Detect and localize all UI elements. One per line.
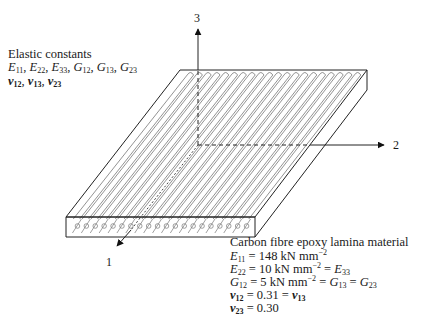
symbol: ν13 (28, 74, 42, 88)
symbol: ν12 (230, 288, 244, 302)
symbol: ν12 (8, 74, 22, 88)
symbol: G13 (329, 275, 346, 289)
symbol: G12 (230, 275, 247, 289)
symbol: G12 (73, 60, 90, 74)
symbol: G23 (360, 275, 377, 289)
symbol: E33 (334, 262, 350, 276)
symbol: E22 (30, 60, 46, 74)
symbol: G23 (120, 60, 137, 74)
symbol: E11 (8, 60, 23, 74)
elastic-constants-line2: ν12, ν13, ν23 (8, 75, 61, 88)
axis-1 (117, 230, 131, 246)
fibre-hatch (73, 73, 361, 220)
symbol: ν23 (48, 74, 62, 88)
axis-2-label: 2 (393, 138, 399, 153)
elastic-constants-line1: E11, E22, E33, G12, G13, G23 (8, 61, 137, 74)
symbol: G13 (97, 60, 114, 74)
material-v23: ν23 = 0.30 (230, 302, 279, 315)
symbol: ν23 (230, 301, 244, 315)
axis-1-label: 1 (106, 255, 112, 270)
axis-3-label: 3 (194, 11, 200, 26)
lamina-side-face (255, 70, 367, 237)
symbol: E33 (51, 60, 67, 74)
symbol: ν13 (292, 288, 306, 302)
symbol: E11 (230, 249, 245, 263)
fibre-ends (72, 219, 250, 233)
symbol: E22 (230, 262, 246, 276)
